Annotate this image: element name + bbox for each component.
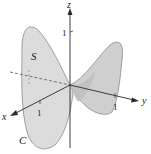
saddle-surface-diagram: z 1 x 1 y 1 S C xyxy=(0,0,151,154)
x-tick-label: 1 xyxy=(37,108,42,118)
z-tick-label: 1 xyxy=(62,28,67,38)
y-axis-label: y xyxy=(141,95,147,106)
curve-label: C xyxy=(19,134,27,146)
z-axis-label: z xyxy=(66,0,71,10)
y-arrow-icon xyxy=(131,98,139,103)
x-arrow-icon xyxy=(10,110,18,116)
surface-label: S xyxy=(31,50,37,62)
x-axis-label: x xyxy=(1,111,7,122)
y-tick-label: 1 xyxy=(113,102,118,112)
